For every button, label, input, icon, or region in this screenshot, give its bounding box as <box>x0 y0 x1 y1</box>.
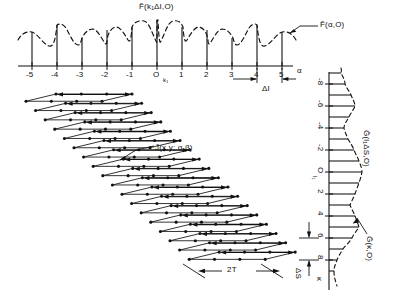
band-node-dot <box>131 167 134 170</box>
band-node-dot <box>127 174 130 177</box>
band-cell-arrowhead <box>269 232 275 236</box>
band-cell-arrowhead <box>259 223 265 227</box>
band-node-dot <box>109 120 112 123</box>
band-node-dot <box>207 167 210 170</box>
band-node-dot <box>233 241 236 244</box>
band-node-dot <box>147 158 150 161</box>
band-node-dot <box>203 249 206 252</box>
band-node-dot <box>201 185 204 188</box>
band-cell <box>151 215 257 222</box>
top-tick-label--3: -3 <box>76 70 84 79</box>
band-node-dot <box>102 139 105 142</box>
band-node-dot <box>136 183 139 186</box>
right-axis-label: κ <box>315 277 324 281</box>
band-node-dot <box>178 139 181 142</box>
band-node-dot <box>130 92 133 95</box>
band-node-dot <box>114 137 117 140</box>
band-node-dot <box>64 102 67 105</box>
band-cell-arrowhead <box>220 250 226 254</box>
band-node-dot <box>235 230 238 233</box>
band-node-dot <box>213 258 216 261</box>
band-node-dot <box>89 102 92 105</box>
top-tick-label-4: 4 <box>254 70 259 79</box>
band-cell-arrowhead <box>135 102 141 106</box>
band-node-dot <box>196 193 199 196</box>
band-cell <box>36 103 142 110</box>
right-tick-label-6: 6 <box>316 233 325 238</box>
band-node-dot <box>190 211 193 214</box>
band-cell <box>55 122 161 129</box>
right-tick-label-4: 4 <box>316 211 325 216</box>
band-cell-arrowhead <box>153 185 159 189</box>
band-node-dot <box>200 221 203 224</box>
band-node-dot <box>140 102 143 105</box>
band-node-dot <box>101 174 104 177</box>
right-envelope-leader <box>353 218 367 234</box>
right-spike-label: G̃(l₁ΔS,O) <box>362 130 371 167</box>
band-node-dot <box>128 139 131 142</box>
band-node-dot <box>194 239 197 242</box>
band-node-dot <box>133 156 136 159</box>
band-node-dot <box>192 176 195 179</box>
band-node-dot <box>205 213 208 216</box>
band-node-dot <box>155 202 158 205</box>
band-node-dot <box>178 249 181 252</box>
band-cell <box>26 94 132 101</box>
band-node-dot <box>259 241 262 244</box>
top-tick-label--2: -2 <box>101 70 109 79</box>
band-node-dot <box>225 221 228 224</box>
band-node-dot <box>34 109 37 112</box>
band-node-dot <box>175 221 178 224</box>
band-cell-arrowhead <box>57 92 63 96</box>
band-node-dot <box>217 176 220 179</box>
band-node-dot <box>63 137 66 140</box>
band-cell-arrowhead <box>240 204 246 208</box>
band-node-dot <box>124 111 127 114</box>
right-tick-label--2: -2 <box>316 144 325 152</box>
band-node-dot <box>79 128 82 131</box>
band-node-dot <box>240 223 243 226</box>
band-node-dot <box>98 146 101 149</box>
band-cell-arrowhead <box>211 241 217 245</box>
band-node-dot <box>255 213 258 216</box>
band-node-dot <box>54 92 57 95</box>
top-envelope-leader <box>290 26 318 33</box>
band-node-dot <box>85 109 88 112</box>
top-tick-label-0: O <box>153 70 159 79</box>
band-cell-arrowhead <box>221 185 227 189</box>
band-node-dot <box>172 158 175 161</box>
band-node-dot <box>80 92 83 95</box>
band-cell-arrowhead <box>143 176 149 180</box>
band-node-dot <box>74 111 77 114</box>
band-cell <box>141 206 247 213</box>
band-cell-arrowhead <box>125 92 131 96</box>
band-node-dot <box>104 128 107 131</box>
band-cell <box>160 224 266 231</box>
band-node-dot <box>118 130 121 133</box>
right-tick-label--6: -6 <box>316 100 325 108</box>
band-cell-arrowhead <box>250 213 256 217</box>
band-node-dot <box>82 156 85 159</box>
band-node-dot <box>158 156 161 159</box>
band-node-dot <box>24 100 27 103</box>
band-cell-arrowhead <box>134 167 140 171</box>
band-node-dot <box>112 148 115 151</box>
band-node-dot <box>59 109 62 112</box>
band-node-dot <box>170 204 173 207</box>
band-node-dot <box>236 195 239 198</box>
band-node-dot <box>284 241 287 244</box>
top-origin-sub-label: k₁ <box>163 77 168 83</box>
band-cell-arrowhead <box>144 111 150 115</box>
band-node-dot <box>152 174 155 177</box>
band-node-dot <box>177 174 180 177</box>
band-node-dot <box>226 185 229 188</box>
band-node-dot <box>211 195 214 198</box>
band-node-dot <box>157 167 160 170</box>
band-node-dot <box>144 130 147 133</box>
band-cell-arrowhead <box>172 204 178 208</box>
band-node-dot <box>150 185 153 188</box>
top-tick-label--4: -4 <box>51 70 59 79</box>
band-node-dot <box>219 239 222 242</box>
band-node-dot <box>187 183 190 186</box>
band-node-dot <box>188 258 191 261</box>
